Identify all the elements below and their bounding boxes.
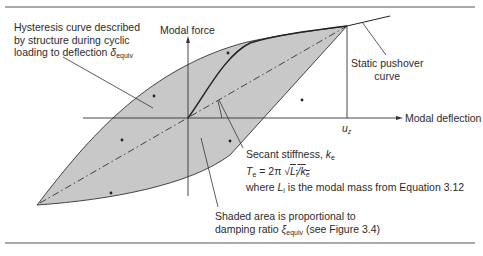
y-axis-label: Modal force [160, 24, 215, 37]
x-axis-label: Modal deflection [405, 112, 481, 125]
hysteresis-line3: loading to deflection δequiv [14, 46, 140, 63]
hysteresis-annotation: Hysteresis curve described by structure … [14, 21, 140, 63]
hysteresis-line1: Hysteresis curve described [14, 21, 140, 34]
direction-marker-icon [121, 139, 124, 142]
pushover-curve [347, 16, 390, 26]
x-axis-arrow-icon [396, 116, 403, 120]
shaded-annotation: Shaded area is proportional to damping r… [215, 210, 380, 239]
direction-marker-icon [229, 140, 232, 143]
shaded-line2: damping ratio ξequiv (see Figure 3.4) [215, 223, 380, 240]
secant-annotation: Secant stiffness, ke Te = 2π √Li/ke wher… [246, 148, 464, 198]
pushover-line1: Static pushover [351, 57, 423, 70]
secant-line3: where Li is the modal mass from Equation… [246, 181, 464, 198]
direction-marker-icon [153, 95, 156, 98]
shaded-line1: Shaded area is proportional to [215, 210, 380, 223]
direction-marker-icon [301, 99, 304, 102]
pushover-annotation: Static pushover curve [351, 57, 423, 82]
secant-period-equation: Te = 2π √Li/ke [246, 165, 464, 182]
hysteresis-leader [63, 57, 153, 108]
pushover-line2: curve [351, 70, 423, 83]
y-axis-arrow-icon [186, 36, 190, 43]
direction-marker-icon [110, 192, 113, 195]
uz-label: uz [342, 122, 351, 139]
pushover-leader [362, 22, 386, 55]
hysteresis-line2: by structure during cyclic [14, 34, 140, 47]
direction-marker-icon [227, 52, 230, 55]
secant-line1: Secant stiffness, ke [246, 148, 464, 165]
